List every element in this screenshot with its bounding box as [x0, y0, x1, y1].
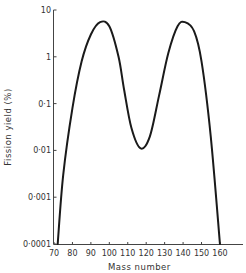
x-tick-label: 100: [102, 249, 117, 258]
y-tick-label: 0·01: [33, 146, 51, 155]
x-tick-label: 80: [67, 249, 77, 258]
x-tick-label: 90: [86, 249, 96, 258]
x-axis: 708090100110120130140150160: [49, 242, 243, 258]
x-tick-label: 110: [120, 249, 135, 258]
fission-yield-curve: [58, 21, 220, 244]
x-tick-label: 70: [49, 249, 59, 258]
x-tick-label: 120: [139, 249, 154, 258]
y-tick-label: 0·1: [38, 100, 51, 109]
x-axis-label: Mass number: [108, 262, 171, 272]
y-tick-label: 0·001: [28, 193, 51, 202]
y-axis-label: Fission yield (%): [3, 88, 13, 165]
y-tick-label: 0·0001: [23, 240, 51, 249]
y-ticks: 1010·10·010·0010·0001: [23, 6, 57, 249]
y-tick-label: 1: [46, 53, 51, 62]
x-tick-label: 160: [212, 249, 227, 258]
x-tick-label: 140: [175, 249, 190, 258]
x-tick-label: 150: [194, 249, 209, 258]
y-axis: 1010·10·010·0010·0001: [23, 6, 57, 249]
y-tick-label: 10: [41, 6, 51, 15]
x-tick-label: 130: [157, 249, 172, 258]
fission-yield-chart: 1010·10·010·0010·0001 708090100110120130…: [0, 0, 246, 273]
